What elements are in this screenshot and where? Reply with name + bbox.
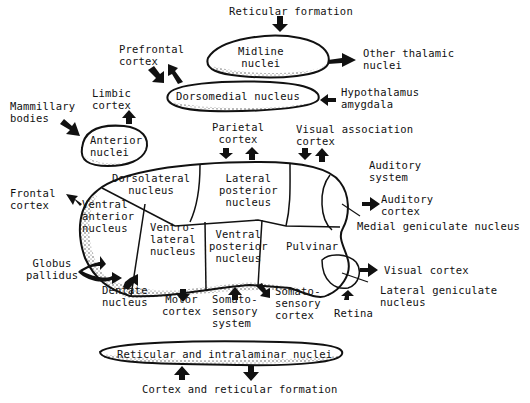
label-anterior-nuclei: Anterior nuclei xyxy=(90,134,142,158)
label-retina: Retina xyxy=(334,307,373,319)
label-visual-cortex: Visual cortex xyxy=(384,264,469,276)
label-somatosensory-cortex: Somato- sensory cortex xyxy=(275,285,321,321)
label-dorsomedial: Dorsomedial nucleus xyxy=(176,90,300,102)
label-pulvinar: Pulvinar xyxy=(286,240,338,252)
label-midline-nuclei: Midline nuclei xyxy=(238,45,284,69)
label-cortex-reticular: Cortex and reticular formation xyxy=(142,383,338,395)
label-ventrolateral: Ventro- lateral nucleus xyxy=(150,221,196,257)
label-auditory-system: Auditory system xyxy=(369,159,421,183)
label-ventral-anterior: Ventral anterior nucleus xyxy=(82,198,134,234)
label-hypothalamus-amygdala: Hypothalamus amygdala xyxy=(341,86,419,110)
label-lateral-geniculate: Lateral geniculate nucleus xyxy=(380,284,497,308)
label-dorsolateral: Dorsolateral nucleus xyxy=(112,172,190,196)
label-parietal: Parietal cortex xyxy=(212,121,264,145)
thalamus-diagram: Reticular formation Midline nuclei Other… xyxy=(0,0,530,403)
label-reticular-formation: Reticular formation xyxy=(229,5,353,17)
label-lateral-posterior: Lateral posterior nucleus xyxy=(219,172,278,208)
lateral-geniculate-shape xyxy=(322,255,359,288)
label-auditory-cortex: Auditory cortex xyxy=(381,193,433,217)
label-somatosensory-system: Somato- sensory system xyxy=(212,293,258,329)
label-other-thalamic: Other thalamic nuclei xyxy=(363,47,454,71)
label-limbic: Limbic cortex xyxy=(92,87,131,111)
label-prefrontal: Prefrontal cortex xyxy=(119,43,184,67)
label-mammillary: Mammillary bodies xyxy=(10,100,75,124)
label-dentate: Dentate nucleus xyxy=(102,284,148,308)
label-medial-geniculate: Medial geniculate nucleus xyxy=(357,220,520,232)
label-reticular-intralaminar: Reticular and intralaminar nuclei xyxy=(117,348,332,360)
label-ventral-posterior: Ventral posterior nucleus xyxy=(209,228,268,264)
label-frontal: Frontal cortex xyxy=(10,187,56,211)
label-globus-pallidus: Globus pallidus xyxy=(26,257,78,281)
label-visual-association: Visual association cortex xyxy=(296,123,413,147)
label-motor: Motor cortex xyxy=(162,293,201,317)
